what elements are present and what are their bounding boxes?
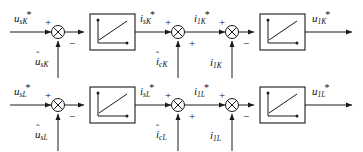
sum-l-1 xyxy=(52,99,65,112)
sign-k-1-feedback: − xyxy=(69,38,75,49)
label-k-output: u1K* xyxy=(312,10,330,26)
label-k-mid-1: isK* xyxy=(140,10,155,26)
sign-k-1-input: + xyxy=(45,17,51,28)
label-l-mid-1: isL* xyxy=(140,83,154,99)
sign-k-2-feedback: + xyxy=(189,38,195,49)
label-l-input: usL* xyxy=(14,83,31,99)
sum-k-3 xyxy=(226,26,239,39)
sign-l-1-input: + xyxy=(45,90,51,101)
sum-k-1 xyxy=(52,26,65,39)
block-l-1 xyxy=(90,87,135,123)
label-l-feedback-2: ̂icL xyxy=(156,129,167,142)
control-block-diagram xyxy=(0,0,363,152)
block-k-2 xyxy=(260,14,305,50)
sum-l-2 xyxy=(172,99,185,112)
label-l-feedback-3: i1L xyxy=(210,130,221,143)
block-k-1 xyxy=(90,14,135,50)
sign-k-3-input: + xyxy=(219,17,225,28)
sign-l-2-input: + xyxy=(165,90,171,101)
label-l-mid-2: i1L* xyxy=(194,83,209,99)
sign-l-3-input: + xyxy=(219,90,225,101)
sum-l-3 xyxy=(226,99,239,112)
sign-k-3-feedback: − xyxy=(243,38,249,49)
label-k-feedback-1: ̂usK xyxy=(35,56,48,69)
label-l-output: u1L* xyxy=(312,83,329,99)
label-k-mid-2: i1K* xyxy=(194,10,210,26)
label-k-feedback-2: ̂icK xyxy=(156,56,167,69)
label-k-feedback-3: i1K xyxy=(210,57,222,70)
sign-k-2-input: + xyxy=(165,17,171,28)
label-k-input: usK* xyxy=(14,10,31,26)
label-l-feedback-1: ̂usL xyxy=(35,129,48,142)
block-l-2 xyxy=(260,87,305,123)
sign-l-1-feedback: − xyxy=(69,111,75,122)
sum-k-2 xyxy=(172,26,185,39)
sign-l-3-feedback: − xyxy=(243,111,249,122)
sign-l-2-feedback: + xyxy=(189,111,195,122)
